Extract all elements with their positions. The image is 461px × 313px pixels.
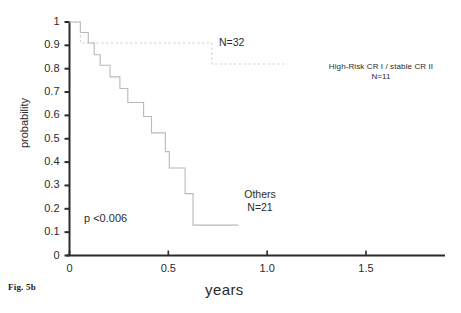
x-axis-label: years xyxy=(205,281,244,298)
x-tick-label: 0 xyxy=(53,262,87,274)
y-tick-label: 0.6 xyxy=(32,108,60,120)
x-tick-label: 1.0 xyxy=(250,262,284,274)
y-tick-label: 0.4 xyxy=(32,155,60,167)
figure-caption: Fig. 5b xyxy=(8,282,36,292)
annotation-others-label: Others xyxy=(228,188,292,201)
y-tick-label: 0.9 xyxy=(32,38,60,50)
y-tick-label: 1 xyxy=(32,15,60,27)
y-axis-label: probability xyxy=(18,78,30,168)
annotation-others-group: Others N=21 xyxy=(228,188,292,214)
y-tick-label: 0.3 xyxy=(32,178,60,190)
survival-curve xyxy=(70,22,287,64)
annotation-highrisk-group: High-Risk CR I / stable CR II N=11 xyxy=(303,62,459,82)
annotation-pvalue: p <0.006 xyxy=(84,212,127,224)
annotation-total-n: N=32 xyxy=(219,36,244,48)
y-tick-label: 0 xyxy=(32,249,60,261)
annotation-others-n: N=21 xyxy=(228,201,292,214)
x-tick-label: 1.5 xyxy=(349,262,383,274)
annotation-highrisk-n: N=11 xyxy=(303,72,459,82)
y-tick-label: 0.1 xyxy=(32,225,60,237)
figure-root: probability years 00.10.20.30.40.50.60.7… xyxy=(0,0,461,313)
y-tick-label: 0.8 xyxy=(32,62,60,74)
y-tick-label: 0.2 xyxy=(32,202,60,214)
y-tick-label: 0.7 xyxy=(32,85,60,97)
y-tick-label: 0.5 xyxy=(32,132,60,144)
x-tick-label: 0.5 xyxy=(151,262,185,274)
survival-curve xyxy=(70,22,239,225)
annotation-highrisk-label: High-Risk CR I / stable CR II xyxy=(303,62,459,72)
